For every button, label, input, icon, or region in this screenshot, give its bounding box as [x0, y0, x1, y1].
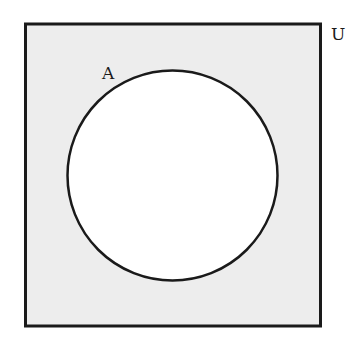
venn-diagram: A U: [0, 0, 361, 348]
set-a-circle: [68, 71, 278, 281]
universe-label: U: [331, 24, 345, 44]
set-a-label: A: [101, 63, 115, 83]
